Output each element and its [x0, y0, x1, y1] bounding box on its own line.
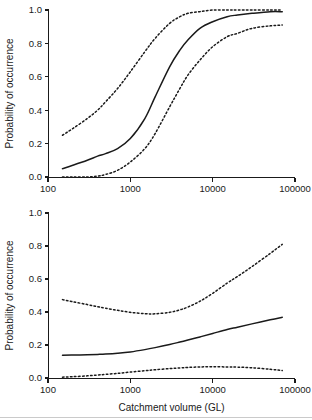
y-tick-label: 0.2 [29, 339, 42, 350]
y-tick-label: 0.4 [29, 105, 42, 116]
x-axis-title: Catchment volume (GL) [118, 402, 224, 413]
y-tick-label: 0.6 [29, 71, 42, 82]
series-curve-mean-fitted-probability [63, 12, 283, 169]
y-axis-title: Probability of occurrence [4, 240, 15, 350]
x-tick-label: 100 [40, 384, 56, 395]
series-curve-upper-confidence-bound [63, 10, 283, 135]
x-tick-label: 100000 [279, 384, 311, 395]
x-tick-label: 1000 [120, 384, 141, 395]
series-curve-lower-confidence-bound [63, 367, 283, 377]
series-curve-lower-confidence-bound [63, 25, 283, 177]
x-tick-label: 1000 [120, 183, 141, 194]
x-tick-label: 100 [40, 183, 56, 194]
y-tick-label: 1.0 [29, 207, 42, 218]
figure-container: 0.00.20.40.60.81.0100100010000100000Prob… [0, 0, 312, 420]
series-curve-mean-fitted-probability [63, 317, 283, 355]
probability-of-occurrence-figure: 0.00.20.40.60.81.0100100010000100000Prob… [0, 0, 312, 420]
x-tick-label: 10000 [199, 183, 225, 194]
y-tick-label: 0.0 [29, 171, 42, 182]
y-axis-title: Probability of occurrence [4, 38, 15, 148]
chart-panel-top: 0.00.20.40.60.81.0100100010000100000Prob… [4, 4, 311, 194]
y-tick-label: 0.8 [29, 38, 42, 49]
x-tick-label: 100000 [279, 183, 311, 194]
y-tick-label: 1.0 [29, 4, 42, 15]
y-tick-label: 0.2 [29, 138, 42, 149]
y-tick-label: 0.4 [29, 306, 42, 317]
chart-panel-bottom: 0.00.20.40.60.81.0100100010000100000Prob… [4, 207, 311, 413]
y-tick-label: 0.6 [29, 273, 42, 284]
x-tick-label: 10000 [199, 384, 225, 395]
y-tick-label: 0.8 [29, 240, 42, 251]
series-curve-upper-confidence-bound [63, 244, 283, 314]
y-tick-label: 0.0 [29, 372, 42, 383]
